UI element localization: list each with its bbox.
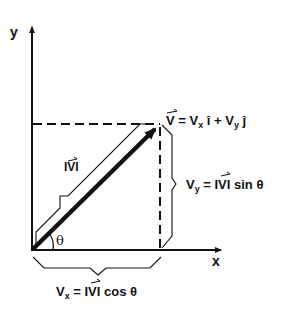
vx-brace <box>33 257 161 275</box>
vector-arrow <box>33 129 155 249</box>
svg-text:IVI: IVI <box>64 160 79 174</box>
vector-equation: V = Vx î + Vy ĵ <box>166 109 248 130</box>
svg-text:V = Vx î + Vy ĵ: V = Vx î + Vy ĵ <box>166 113 248 130</box>
vx-equation: Vx = IVI cos θ <box>56 279 137 301</box>
vector-diagram: y x θ IVI V = Vx î + Vy ĵ Vy = IVI sin θ… <box>0 0 284 313</box>
vy-equation: Vy = IVI sin θ <box>186 172 263 194</box>
vy-over-arrow-icon <box>221 172 230 176</box>
magnitude-bracket-upper <box>36 124 150 232</box>
vy-brace <box>162 125 176 248</box>
theta-label: θ <box>56 233 64 248</box>
y-axis-label: y <box>10 24 18 40</box>
svg-text:Vy = IVI sin θ: Vy = IVI sin θ <box>186 177 263 194</box>
vx-over-arrow-icon <box>91 279 100 283</box>
svg-text:Vx = IVI cos θ: Vx = IVI cos θ <box>56 284 137 301</box>
x-axis-label: x <box>212 253 220 269</box>
magnitude-label: IVI <box>64 157 79 174</box>
